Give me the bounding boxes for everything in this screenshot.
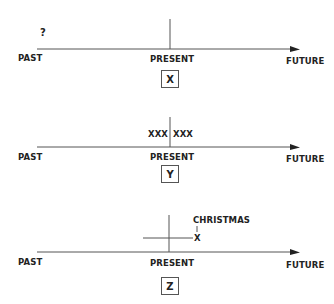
past-label: PAST xyxy=(18,53,42,63)
present-label: PRESENT xyxy=(150,152,194,162)
arrow-head-icon xyxy=(290,46,300,52)
future-label: FUTURE xyxy=(286,260,324,270)
panel-label-box-z: Z xyxy=(161,277,179,295)
panel-label-box-x: X xyxy=(161,70,179,88)
xxx-right-annotation: XXX xyxy=(173,129,193,139)
past-label: PAST xyxy=(18,257,42,267)
future-label: FUTURE xyxy=(286,56,324,66)
panel-z-timeline xyxy=(37,215,300,255)
panel-label-box-y: Y xyxy=(161,165,179,183)
xxx-left-annotation: XXX xyxy=(148,129,168,139)
arrow-head-icon xyxy=(290,249,300,255)
present-label: PRESENT xyxy=(150,54,194,64)
past-label: PAST xyxy=(18,152,42,162)
future-label: FUTURE xyxy=(286,154,324,164)
arrow-head-icon xyxy=(290,144,300,150)
present-label: PRESENT xyxy=(150,258,194,268)
question-mark-annotation: ? xyxy=(40,27,46,38)
christmas-label: CHRISTMAS xyxy=(193,215,250,225)
panel-y-timeline xyxy=(37,117,300,150)
panel-x-timeline xyxy=(37,19,300,52)
christmas-marker: X xyxy=(194,233,201,243)
